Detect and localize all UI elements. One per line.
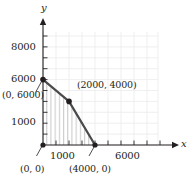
annotation-4000-0: (4000, 0) [69, 163, 111, 174]
x-tick-label-6000: 6000 [115, 150, 140, 161]
x-axis-label: x [181, 138, 187, 149]
x-tick-label-1000: 1000 [50, 150, 75, 161]
annotation-origin: (0, 0) [20, 163, 44, 174]
data-point-2000-4000 [66, 99, 72, 105]
data-point-4000-0 [92, 142, 97, 147]
annotation-2000-4000: (2000, 4000) [77, 79, 136, 90]
figure-canvas: 8000 6000 1000 1000 6000 y x (0, 6000) (… [0, 0, 192, 181]
y-tick-label-8000: 8000 [11, 41, 36, 52]
y-axis-label: y [41, 2, 47, 13]
y-axis-arrow [40, 18, 46, 25]
y-tick-label-6000: 6000 [11, 73, 36, 84]
data-point-origin [40, 142, 45, 147]
leader-line-origin [37, 147, 42, 156]
leader-line-4000-0 [89, 147, 94, 156]
x-axis-arrow [172, 142, 179, 148]
y-tick-label-1000: 1000 [11, 116, 36, 127]
annotation-0-6000: (0, 6000) [2, 89, 44, 100]
